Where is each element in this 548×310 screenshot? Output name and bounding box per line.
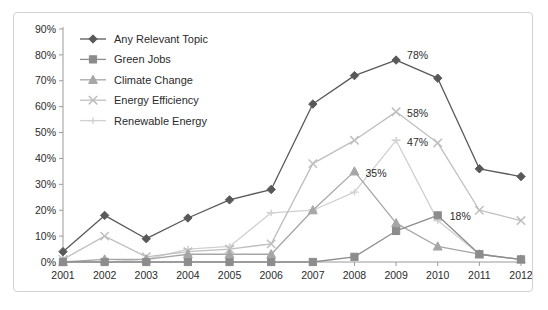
marker-x (309, 159, 317, 167)
y-axis-tick-label: 0% (41, 256, 56, 268)
y-axis-tick-label: 50% (35, 126, 56, 138)
marker-diamond (267, 185, 275, 193)
y-axis-tick-label: 40% (35, 152, 56, 164)
marker-diamond (517, 172, 525, 180)
data-point-label: 18% (450, 210, 471, 222)
marker-square (351, 253, 358, 260)
marker-triangle (350, 167, 359, 175)
legend-label-1: Any Relevant Topic (114, 33, 208, 45)
chart-frame: 0%10%20%30%40%50%60%70%80%90%20012002200… (13, 12, 533, 292)
y-axis-tick-label: 30% (35, 178, 56, 190)
x-axis-tick-label: 2006 (260, 269, 284, 281)
marker-square (184, 258, 191, 265)
series-line (63, 112, 521, 260)
series-any-relevant-topic (59, 56, 525, 256)
legend-marker-2 (89, 56, 96, 63)
marker-square (392, 227, 399, 234)
y-axis-tick-label: 70% (35, 74, 56, 86)
x-axis-tick-label: 2004 (176, 269, 200, 281)
marker-square (101, 258, 108, 265)
line-chart: 0%10%20%30%40%50%60%70%80%90%20012002200… (14, 13, 532, 291)
legend-label-3: Climate Change (114, 74, 193, 86)
x-axis-tick-label: 2012 (509, 269, 532, 281)
marker-square (309, 258, 316, 265)
y-axis-tick-label: 80% (35, 49, 56, 61)
legend-marker-5 (89, 117, 98, 123)
series-renewable-energy (59, 137, 526, 265)
legend-label-2: Green Jobs (114, 53, 171, 65)
x-axis-tick-label: 2008 (343, 269, 367, 281)
marker-square (268, 258, 275, 265)
series-line (63, 215, 521, 262)
marker-diamond (309, 100, 317, 108)
marker-square (59, 258, 66, 265)
marker-dash (89, 117, 98, 123)
marker-x (517, 216, 525, 224)
marker-square (143, 258, 150, 265)
x-axis-tick-label: 2010 (426, 269, 450, 281)
y-axis-tick-label: 10% (35, 230, 56, 242)
marker-diamond (89, 35, 97, 43)
marker-diamond (475, 165, 483, 173)
marker-square (226, 258, 233, 265)
marker-x (434, 139, 442, 147)
x-axis-tick-label: 2007 (301, 269, 325, 281)
marker-square (476, 251, 483, 258)
chart-legend: Any Relevant TopicGreen JobsClimate Chan… (80, 33, 208, 127)
legend-label-4: Energy Efficiency (114, 94, 199, 106)
y-axis-tick-label: 20% (35, 204, 56, 216)
y-axis-tick-label: 90% (35, 23, 56, 35)
legend-label-5: Renewable Energy (114, 115, 207, 127)
data-point-label: 35% (365, 167, 386, 179)
x-axis-tick-label: 2002 (93, 269, 117, 281)
marker-x (392, 108, 400, 116)
marker-diamond (392, 56, 400, 64)
x-axis-tick-label: 2003 (135, 269, 159, 281)
marker-diamond (225, 196, 233, 204)
y-axis-tick-label: 60% (35, 100, 56, 112)
data-point-label: 58% (407, 107, 428, 119)
x-axis-tick-label: 2009 (384, 269, 408, 281)
marker-square (517, 256, 524, 263)
marker-dash (392, 137, 401, 143)
marker-diamond (350, 71, 358, 79)
x-axis-tick-label: 2005 (218, 269, 242, 281)
series-line (63, 60, 521, 252)
data-point-label: 47% (407, 136, 428, 148)
series-line (63, 140, 521, 262)
x-axis-tick-label: 2011 (468, 269, 491, 281)
marker-diamond (184, 214, 192, 222)
marker-square (434, 212, 441, 219)
legend-marker-1 (89, 35, 97, 43)
data-point-label: 78% (407, 49, 428, 61)
marker-x (475, 206, 483, 214)
marker-x (350, 136, 358, 144)
marker-diamond (434, 74, 442, 82)
marker-triangle (433, 242, 442, 250)
marker-x (100, 232, 108, 240)
x-axis-tick-label: 2001 (51, 269, 75, 281)
marker-diamond (142, 235, 150, 243)
series-energy-efficiency (59, 108, 525, 264)
marker-square (89, 56, 96, 63)
marker-dash (350, 189, 359, 195)
